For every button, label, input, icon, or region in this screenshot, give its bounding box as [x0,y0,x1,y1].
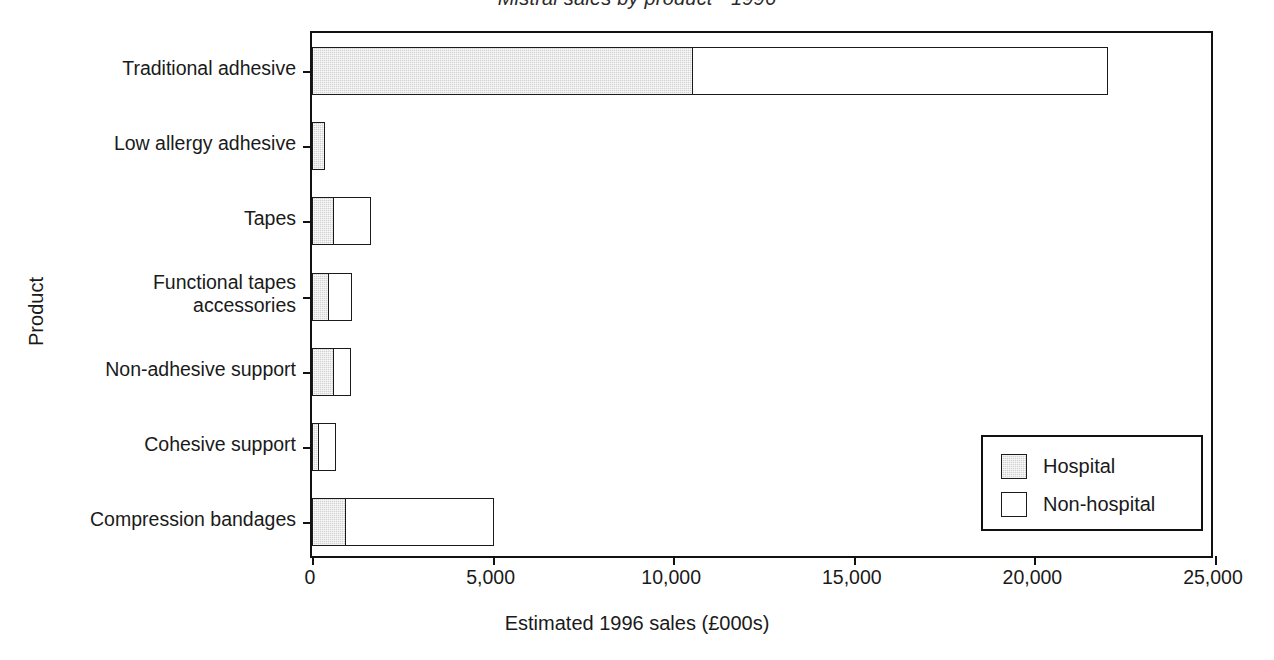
y-axis-tick [303,221,312,223]
bar-segment-non-hospital [328,273,352,321]
bar-segment-non-hospital [332,348,351,396]
legend-swatch-non-hospital-icon [1001,492,1027,517]
legend-item-hospital: Hospital [1001,447,1201,485]
y-axis-tick [303,372,312,374]
chart-title: Mistral sales by product - 1996 [0,0,1274,10]
x-axis-title: Estimated 1996 sales (£000s) [0,612,1274,635]
bar-segment-hospital [312,423,319,471]
y-axis-label: Compression bandages [90,508,296,531]
y-axis-label: Low allergy adhesive [114,132,296,155]
y-axis-tick [303,146,312,148]
y-axis-label: Traditional adhesive [122,57,296,80]
x-axis-tick [854,556,856,565]
x-axis-label: 15,000 [782,566,922,589]
x-axis-label: 0 [240,566,380,589]
y-axis-label: Functional tapes accessories [153,271,296,317]
bar-segment-non-hospital [691,47,1108,95]
bar-segment-hospital [312,273,329,321]
y-axis-label: Cohesive support [144,433,296,456]
x-axis-tick [673,556,675,565]
x-axis-tick [1215,556,1217,565]
bar-segment-non-hospital [332,197,371,245]
legend-swatch-hospital-icon [1001,454,1027,479]
y-axis-title: Product [25,252,48,372]
legend-item-non-hospital: Non-hospital [1001,485,1201,523]
bar-segment-hospital [312,348,334,396]
bar-segment-hospital [312,498,346,546]
x-axis-tick [312,556,314,565]
legend-label-non-hospital: Non-hospital [1043,493,1155,516]
y-axis-tick [303,522,312,524]
bar-segment-hospital [312,47,693,95]
x-axis-label: 25,000 [1143,566,1274,589]
y-axis-tick [303,297,312,299]
bar-segment-hospital [312,122,325,170]
x-axis-label: 10,000 [601,566,741,589]
y-axis-tick [303,71,312,73]
x-axis-label: 20,000 [962,566,1102,589]
x-axis-tick [1034,556,1036,565]
legend-label-hospital: Hospital [1043,455,1115,478]
x-axis-label: 5,000 [421,566,561,589]
y-axis-label: Non-adhesive support [105,358,296,381]
chart-legend: Hospital Non-hospital [981,435,1203,531]
x-axis-tick [493,556,495,565]
bar-segment-non-hospital [317,423,335,471]
y-axis-label: Tapes [244,207,296,230]
y-axis-tick [303,447,312,449]
bar-segment-hospital [312,197,334,245]
bar-segment-non-hospital [345,498,495,546]
